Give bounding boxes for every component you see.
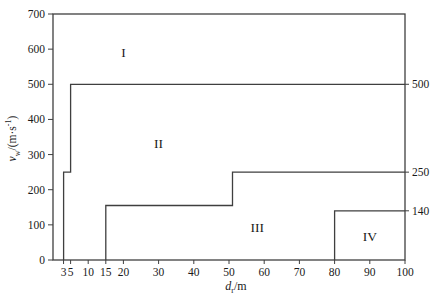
x-tick-label: 20 — [118, 266, 130, 278]
x-axis-label: dr/m — [176, 279, 296, 295]
y-tick-label: 100 — [28, 219, 46, 231]
y-tick-label: 700 — [28, 8, 46, 20]
x-axis-unit: /m — [234, 279, 247, 293]
y-tick-label: 200 — [28, 184, 46, 196]
right-axis-value: 250 — [412, 166, 430, 178]
region-label-I: I — [121, 45, 126, 60]
x-tick-label: 10 — [82, 266, 94, 278]
y-axis-symbol: v — [6, 156, 18, 161]
y-tick-label: 0 — [39, 254, 45, 266]
region-label-III: III — [250, 220, 264, 235]
x-tick-label: 15 — [100, 266, 112, 278]
boundary-region-II-III — [106, 172, 405, 260]
x-tick-label: 3 — [61, 266, 67, 278]
plot-svg: 3510152030405060708090100010020030040050… — [0, 0, 438, 306]
region-label-II: II — [154, 136, 163, 151]
y-axis-unit-close: ) — [6, 116, 18, 120]
y-axis-subscript: w — [13, 151, 22, 157]
x-tick-label: 5 — [68, 266, 74, 278]
region-label-IV: IV — [363, 229, 377, 244]
right-axis-value: 500 — [412, 78, 430, 90]
x-tick-label: 60 — [258, 266, 270, 278]
x-tick-label: 50 — [223, 266, 235, 278]
y-tick-label: 400 — [28, 113, 46, 125]
y-tick-label: 600 — [28, 43, 46, 55]
y-tick-label: 300 — [28, 149, 46, 161]
y-axis-superscript: -1 — [4, 120, 13, 127]
y-tick-label: 500 — [28, 78, 46, 90]
x-tick-label: 70 — [294, 266, 306, 278]
x-tick-label: 30 — [153, 266, 165, 278]
x-tick-label: 100 — [396, 266, 414, 278]
right-axis-value: 140 — [412, 205, 430, 217]
x-tick-label: 40 — [188, 266, 200, 278]
y-axis-label: vw/(m·s-1) — [4, 59, 21, 219]
y-axis-unit: /(m·s — [6, 126, 18, 150]
x-tick-label: 80 — [329, 266, 341, 278]
step-region-chart: 3510152030405060708090100010020030040050… — [0, 0, 438, 306]
x-tick-label: 90 — [364, 266, 376, 278]
